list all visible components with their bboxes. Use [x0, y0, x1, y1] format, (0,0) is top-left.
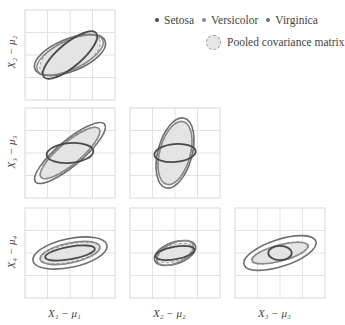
versicolor-dot-icon	[202, 18, 206, 22]
legend: SetosaVersicolorVirginica	[155, 14, 318, 26]
y-axis-label-3: X₃ − μ₃	[5, 127, 17, 177]
y-axis-label-2: X₂ − μ₂	[5, 27, 17, 77]
legend-item-setosa: Setosa	[155, 14, 194, 26]
setosa-dot-icon	[155, 18, 159, 22]
x-axis-label-1: X₁ − μ₁	[48, 307, 81, 319]
panel-X1-X4	[25, 208, 115, 298]
panel-X1-X3	[25, 108, 115, 198]
legend-label-versicolor: Versicolor	[211, 14, 258, 26]
y-axis-label-4: X₄ − μ₄	[5, 227, 17, 277]
legend-pooled: Pooled covariance matrix	[206, 36, 345, 51]
pooled-circle-icon	[206, 35, 221, 50]
legend-label-pooled: Pooled covariance matrix	[227, 36, 345, 48]
virginica-dot-icon	[266, 18, 270, 22]
panel-X2-X3	[130, 108, 220, 198]
legend-item-versicolor: Versicolor	[202, 14, 258, 26]
legend-item-virginica: Virginica	[266, 14, 318, 26]
panel-X1-X2	[25, 10, 115, 100]
legend-label-virginica: Virginica	[275, 14, 318, 26]
legend-label-setosa: Setosa	[164, 14, 194, 26]
panel-X2-X4	[130, 208, 220, 298]
x-axis-label-2: X₂ − μ₂	[153, 307, 186, 319]
x-axis-label-3: X₃ − μ₃	[258, 307, 291, 319]
panel-X3-X4	[235, 208, 325, 298]
